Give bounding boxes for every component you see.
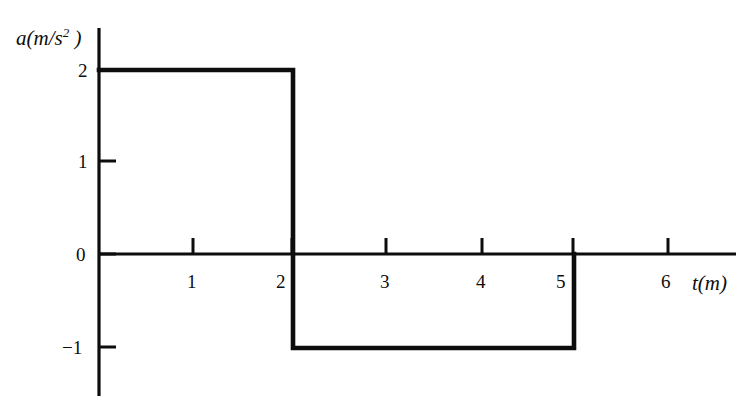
chart-figure: a(m/s2 ) t(m) 2 1 0 −1 1 2 3 4 5 6: [0, 0, 756, 406]
acceleration-time-chart: [0, 0, 756, 406]
x-tick-label-6: 6: [661, 272, 671, 291]
x-tick-label-5: 5: [556, 272, 566, 291]
y-axis-title-tail: ): [69, 26, 81, 50]
y-tick-label-2: 2: [78, 61, 88, 80]
x-tick-label-2: 2: [276, 272, 286, 291]
y-axis-title-base: a(m/s: [16, 26, 63, 50]
y-axis-title: a(m/s2 ): [16, 26, 81, 49]
x-tick-label-4: 4: [476, 272, 486, 291]
x-axis-title: t(m): [692, 273, 727, 294]
x-tick-label-3: 3: [380, 272, 390, 291]
x-tick-label-1: 1: [187, 272, 197, 291]
acceleration-step-curve: [99, 70, 574, 348]
y-tick-label-1: 1: [78, 152, 88, 171]
y-tick-label-minus1: −1: [62, 338, 82, 357]
y-tick-label-0: 0: [76, 245, 86, 264]
